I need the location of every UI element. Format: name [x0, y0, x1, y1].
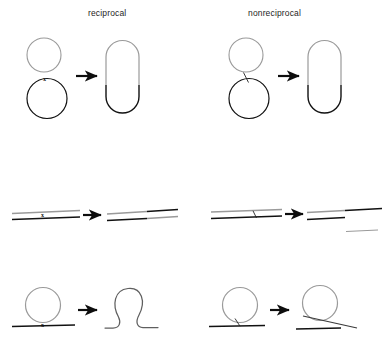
gray-circle-product	[303, 286, 338, 321]
row-circle-circle	[27, 38, 341, 119]
black-line-product	[296, 328, 341, 329]
black-duplex	[12, 217, 80, 220]
gray-circle	[26, 288, 61, 323]
recombinant-bottom-black-segment	[107, 219, 147, 221]
nonrecip-top-gray-segment	[307, 211, 345, 213]
row1-left-before	[27, 38, 67, 119]
row3-right-before	[209, 288, 265, 327]
row2-left-before	[12, 211, 80, 220]
row1-right-before	[229, 38, 269, 119]
row1-right-after	[308, 41, 341, 114]
recombinant-top-gray-segment	[107, 212, 147, 215]
crossover-x-marker-row2: x	[41, 212, 44, 218]
row3-right-after	[296, 286, 357, 330]
row3-left-after	[105, 288, 158, 328]
gray-circle-top	[27, 38, 61, 72]
gray-circle-top	[229, 38, 263, 72]
row3-left-before	[12, 288, 75, 327]
nonrecip-detached-gray-fragment	[346, 230, 378, 232]
recombination-diagram	[0, 0, 384, 349]
recombinant-top-black-segment	[147, 210, 178, 212]
row-circle-linear	[12, 286, 357, 330]
recombinant-bottom-gray-segment	[147, 217, 178, 219]
capsule-black-arc	[308, 85, 341, 113]
black-line	[209, 326, 265, 327]
gray-duplex	[12, 211, 80, 214]
row1-left-after	[106, 41, 139, 114]
crossover-x-marker-row1: x	[43, 76, 46, 82]
slanted-bridge-icon	[244, 73, 249, 83]
row2-right-after	[307, 209, 382, 232]
capsule-black-arc	[106, 85, 139, 113]
gray-circle	[223, 288, 258, 323]
gray-duplex	[211, 210, 282, 213]
black-duplex	[211, 216, 282, 219]
row2-left-after	[107, 210, 178, 221]
capsule-gray-arc	[308, 41, 341, 86]
capsule-gray-arc	[106, 41, 139, 86]
nonrecip-bottom-black-segment	[307, 218, 345, 220]
nonrecip-top-black-segment	[345, 209, 382, 211]
black-circle-bottom	[27, 79, 67, 119]
row-linear-linear	[12, 209, 382, 232]
row2-right-before	[211, 210, 282, 219]
integrated-loop-omega	[105, 288, 158, 328]
crossover-x-marker-row3: x	[41, 322, 44, 328]
black-circle-bottom	[229, 79, 269, 119]
